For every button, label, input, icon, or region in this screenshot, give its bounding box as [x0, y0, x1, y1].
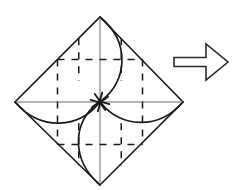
- next-step-arrow-icon: [174, 44, 228, 80]
- diagram-canvas: [0, 0, 232, 190]
- origami-diagram: Origami fold step diagram Square sheet s…: [0, 0, 232, 190]
